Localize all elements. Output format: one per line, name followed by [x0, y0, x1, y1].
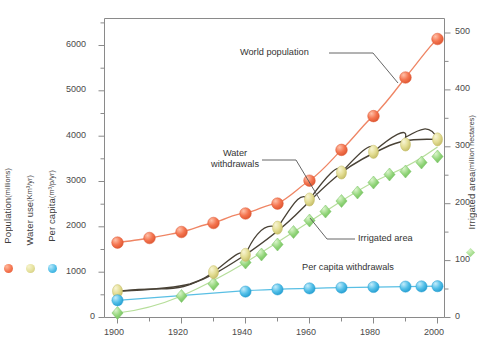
left-tick-label-0: 0: [90, 311, 95, 321]
series-markers-water-withdrawals: [113, 133, 443, 298]
annotation-water-withdrawals: Water withdrawals: [205, 148, 265, 170]
right-tick-label-500: 500: [455, 26, 470, 36]
bottom-tick-label-1940: 1940: [232, 327, 252, 337]
bottom-tick-label-1920: 1920: [168, 327, 188, 337]
right-tick-label-200: 200: [455, 197, 470, 207]
right-tick-label-100: 100: [455, 254, 470, 264]
annotation-water-withdrawals-line1: Water: [205, 148, 265, 159]
bottom-tick-label-1960: 1960: [296, 327, 316, 337]
right-tick-label-400: 400: [455, 83, 470, 93]
annotation-per-capita-withdrawals: Per capita withdrawals: [302, 262, 394, 273]
left-axis-ticks: [99, 23, 105, 318]
series-markers-world-population: [112, 33, 444, 248]
bottom-axis-ticks: [118, 318, 438, 324]
annotation-irrigated-area: Irrigated area: [358, 233, 413, 244]
left-tick-label-3000: 3000: [66, 175, 86, 185]
bottom-tick-label-1980: 1980: [360, 327, 380, 337]
right-tick-label-300: 300: [455, 140, 470, 150]
bottom-tick-label-2000: 2000: [424, 327, 444, 337]
left-tick-label-6000: 6000: [66, 39, 86, 49]
right-axis-ticks: [445, 33, 451, 318]
left-tick-label-1000: 1000: [66, 266, 86, 276]
annotation-world-population: World population: [240, 47, 309, 58]
series-markers-per-capita-withdrawals: [112, 281, 443, 306]
leader-line-irrigated-area: [310, 218, 327, 239]
annotation-water-withdrawals-line2: withdrawals: [205, 159, 265, 170]
left-tick-label-5000: 5000: [66, 84, 86, 94]
chart-figure: Population(millions) Water use(Km³/yr) P…: [0, 0, 493, 354]
bottom-tick-label-1900: 1900: [104, 327, 124, 337]
series-line-world-population: [118, 39, 438, 243]
leader-line-world-population: [329, 53, 398, 83]
right-tick-label-0: 0: [455, 311, 460, 321]
left-tick-label-4000: 4000: [66, 130, 86, 140]
left-tick-label-2000: 2000: [66, 220, 86, 230]
